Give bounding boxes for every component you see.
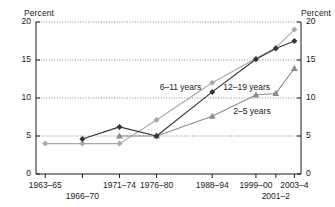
y-tick-label-left: 0 (15, 168, 31, 178)
data-point (79, 136, 85, 142)
x-tick-label-7: 2003–4 (280, 180, 308, 190)
x-tick-label-6: 2001–2 (262, 191, 290, 201)
y-tick-label-left: 10 (15, 92, 31, 102)
y-tick-label-left: 20 (15, 16, 31, 26)
y-tick-label-right: 10 (306, 92, 322, 102)
series-annotation-0: 6–11 years (160, 82, 201, 92)
x-tick-label-3: 1976–80 (140, 180, 173, 190)
series-line-0 (256, 93, 276, 95)
data-point (291, 65, 298, 71)
y-tick-label-right: 0 (306, 168, 322, 178)
series-line-0 (157, 116, 213, 136)
series-annotation-2: 2–5 years (233, 106, 270, 116)
data-point (209, 113, 216, 119)
data-point (209, 80, 215, 86)
y-tick-label-right: 15 (306, 54, 322, 64)
axis-ticks (36, 22, 301, 178)
x-tick-label-0: 1963–65 (29, 180, 62, 190)
series-line-1 (212, 58, 256, 82)
y-tick-label-right: 5 (306, 130, 322, 140)
series-line-2 (256, 49, 276, 60)
x-tick-label-2: 1971–74 (103, 180, 136, 190)
x-tick-label-1: 1966–70 (66, 191, 99, 201)
data-point (42, 141, 48, 147)
y-tick-label-right: 20 (306, 16, 322, 26)
x-tick-label-5: 1999–00 (239, 180, 272, 190)
series-annotation-1: 12–19 years (223, 82, 270, 92)
chart-container: Percent Percent 05101520 05101520 1963–6… (0, 0, 335, 207)
gridlines (36, 22, 301, 136)
data-point (291, 38, 297, 44)
series-line-2 (119, 127, 156, 136)
series-line-0 (276, 68, 295, 93)
series-line-2 (82, 127, 119, 139)
data-point (116, 124, 122, 130)
y-tick-label-left: 5 (15, 130, 31, 140)
x-tick-label-4: 1988–94 (196, 180, 229, 190)
data-point (154, 117, 160, 123)
plot-area (0, 0, 335, 207)
data-point (116, 141, 122, 147)
series-line-1 (256, 48, 276, 59)
y-tick-label-left: 15 (15, 54, 31, 64)
